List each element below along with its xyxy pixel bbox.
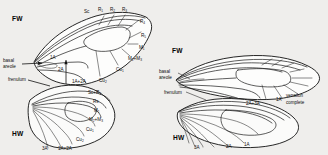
- frenulum-label-left: frenulum: [8, 77, 26, 82]
- venation-complete-line2: complete: [286, 100, 305, 105]
- vein-1a2a-fw-label: 1A+2A: [72, 79, 87, 84]
- vein-sc-fw-label: Sc: [84, 9, 90, 14]
- vein-2a3a-fw-right-label: 2A+3A: [246, 101, 261, 106]
- fw-right-label: FW: [172, 47, 183, 54]
- vein-2a-hw-right-label: 2A: [226, 144, 233, 149]
- hw-right-label: HW: [173, 134, 185, 141]
- basal-areole-label-left-line2: areole: [3, 64, 16, 69]
- vein-3a-hw-label: 3A: [42, 146, 49, 151]
- vein-1a-fw-label: 1A: [50, 55, 57, 60]
- basal-areole-label-right-line2: areole: [159, 75, 172, 80]
- basal-areole-label-right-line1: basal: [159, 69, 170, 74]
- hw-left-label: HW: [12, 130, 24, 137]
- fw-left-label: FW: [12, 15, 23, 22]
- vein-3a-hw-right-label: 3A: [194, 145, 201, 150]
- frenulum-label-right: frenulum: [164, 90, 182, 95]
- vein-1a-hw-right-label: 1A: [244, 142, 251, 147]
- basal-areole-label-left-line1: basal: [3, 58, 14, 63]
- vein-2a-fw-label: 2A: [58, 67, 65, 72]
- vein-rs-hw-label: Rs: [93, 99, 99, 104]
- vein-1a-fw-right-label: 1A: [276, 97, 283, 102]
- figure-canvas: FW HW FW HW basal areole frenulum Sc R1 …: [0, 0, 328, 155]
- vein-1a2a-hw-label: 1A+2A: [58, 146, 73, 151]
- venation-complete-line1: venation: [286, 93, 304, 98]
- lepidoptera-wing-venation-figure: FW HW FW HW basal areole frenulum Sc R1 …: [0, 0, 328, 155]
